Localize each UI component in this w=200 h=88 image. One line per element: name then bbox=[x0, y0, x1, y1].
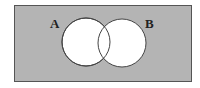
set-b-circle bbox=[98, 19, 146, 67]
venn-diagram: A B bbox=[0, 0, 200, 88]
set-a-label: A bbox=[50, 16, 60, 31]
set-b-label: B bbox=[145, 16, 154, 31]
